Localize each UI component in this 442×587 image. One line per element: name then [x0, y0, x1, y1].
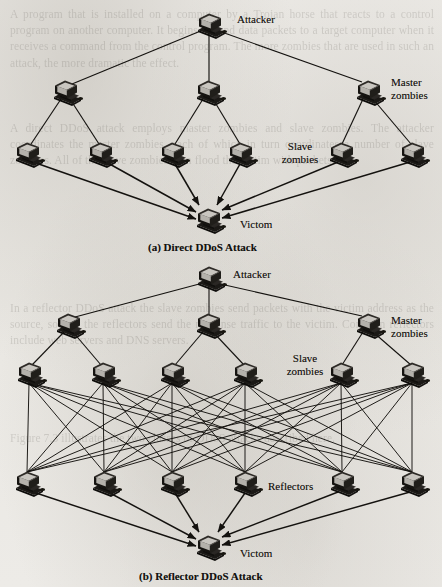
node-master-zombie-2 [197, 314, 226, 340]
node-reflector-2 [93, 472, 122, 498]
node-slave-zombie-6 [401, 143, 430, 169]
figure-a-nodes [16, 14, 430, 235]
label-master-zombies-a: Master zombies [391, 76, 428, 101]
node-reflector-4 [234, 472, 263, 498]
node-reflector-5 [331, 472, 360, 498]
node-slave-zombie-5 [330, 143, 359, 169]
node-victim [197, 209, 226, 235]
node-slave-zombie-5 [330, 363, 359, 389]
node-master-zombie-3 [357, 314, 386, 340]
figure-a-edges [31, 30, 411, 144]
node-master-zombie-1 [54, 81, 83, 107]
figure-reflector-ddos-graph [16, 267, 430, 562]
node-slave-zombie-4 [234, 363, 263, 389]
paper-grain-texture [0, 0, 442, 587]
bleed-text-block-3: In a reflector DDoS attack the slave zom… [10, 300, 434, 349]
node-master-zombie-2 [197, 81, 226, 107]
figure-a-attack-arrows [33, 162, 410, 219]
bleed-text-block-1: A program that is installed on a compute… [10, 6, 434, 71]
network-diagram-canvas [0, 0, 442, 587]
label-attacker-a: Attacker [237, 13, 275, 26]
node-attacker [198, 14, 227, 40]
node-reflector-1 [16, 472, 45, 498]
label-slave-zombies-b: Slave zombies [276, 352, 334, 377]
node-slave-zombie-6 [401, 363, 430, 389]
node-slave-zombie-2 [89, 143, 118, 169]
node-slave-zombie-1 [18, 363, 47, 389]
node-attacker [198, 267, 227, 293]
label-slave-zombies-a: Slave zombies [271, 140, 329, 165]
bleed-text-block-2: A direct DDoS attack employs master zomb… [10, 120, 434, 169]
figure-b-attack-arrows [33, 492, 410, 546]
node-slave-zombie-3 [161, 143, 190, 169]
bleed-text-block-4: Figure 7.3 illustrates the two classes o… [10, 430, 434, 446]
label-victim-a: Victom [240, 218, 272, 231]
figure-b-nodes [16, 267, 430, 562]
node-slave-zombie-4 [229, 143, 258, 169]
label-attacker-b: Attacker [233, 268, 271, 281]
label-victim-b: Victom [240, 547, 272, 560]
node-master-zombie-3 [357, 81, 386, 107]
caption-figure-a: (a) Direct DDoS Attack [148, 241, 257, 253]
figure-b-edges [32, 283, 411, 365]
node-slave-zombie-1 [16, 143, 45, 169]
label-reflectors-b: Reflectors [268, 480, 313, 493]
node-slave-zombie-3 [161, 363, 190, 389]
node-master-zombie-1 [57, 314, 86, 340]
caption-figure-b: (b) Reflector DDoS Attack [139, 570, 263, 582]
figure-page: A program that is installed on a compute… [0, 0, 442, 587]
node-victim [197, 536, 226, 562]
node-reflector-6 [401, 472, 430, 498]
node-reflector-3 [161, 472, 190, 498]
figure-direct-ddos-graph [16, 14, 430, 235]
node-slave-zombie-2 [92, 363, 121, 389]
label-master-zombies-b: Master zombies [391, 314, 428, 339]
figure-b-slave-reflector-mesh [27, 383, 412, 472]
bleed-through-text-layer: A program that is installed on a compute… [0, 0, 442, 587]
